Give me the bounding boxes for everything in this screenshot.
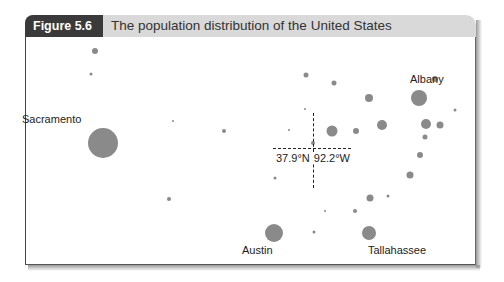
population-dot — [387, 195, 390, 198]
city-dot-sacramento — [88, 128, 118, 158]
longitude-label: 92.2°W — [314, 152, 350, 164]
city-label-tallahassee: Tallahassee — [368, 244, 426, 256]
frame-shadow-bottom — [28, 265, 480, 271]
population-dot — [353, 209, 357, 213]
center-crosshair-vertical — [313, 113, 314, 188]
population-dot — [377, 120, 387, 130]
population-dot — [90, 73, 93, 76]
center-coordinates-label: 37.9°N92.2°W — [275, 152, 351, 164]
population-dot — [304, 108, 306, 110]
population-dot — [437, 122, 444, 129]
city-dot-austin — [265, 224, 283, 242]
city-dot-albany — [411, 90, 427, 106]
population-dot — [367, 195, 374, 202]
population-dot — [417, 152, 423, 158]
population-dot — [407, 172, 414, 179]
city-label-sacramento: Sacramento — [22, 113, 81, 125]
population-dot — [324, 210, 326, 212]
latitude-label: 37.9°N — [276, 152, 310, 164]
population-dot — [327, 126, 338, 137]
population-dot — [423, 135, 428, 140]
population-dot — [304, 73, 309, 78]
population-dot — [172, 120, 174, 122]
figure-label: Figure 5.6 — [25, 15, 103, 37]
population-dot — [92, 48, 98, 54]
population-dot — [313, 231, 316, 234]
population-dot — [332, 81, 337, 86]
frame-shadow-right — [476, 20, 482, 268]
figure-title: The population distribution of the Unite… — [111, 15, 392, 37]
population-dot — [288, 129, 290, 131]
population-dot — [167, 197, 171, 201]
population-dot — [353, 128, 359, 134]
population-dot — [454, 109, 457, 112]
population-dot — [421, 119, 431, 129]
city-label-albany: Albany — [410, 73, 444, 85]
population-dot — [365, 94, 373, 102]
population-dot — [222, 129, 226, 133]
city-dot-tallahassee — [362, 226, 376, 240]
population-dot — [274, 177, 277, 180]
center-crosshair-horizontal — [273, 148, 351, 149]
city-label-austin: Austin — [242, 244, 273, 256]
